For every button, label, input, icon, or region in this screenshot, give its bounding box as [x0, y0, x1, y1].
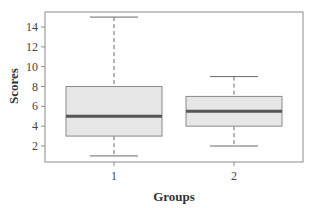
y-tick-label: 2 — [32, 139, 38, 153]
x-tick-label: 1 — [111, 169, 117, 183]
iqr-box — [66, 87, 162, 137]
y-tick-label: 14 — [26, 20, 38, 34]
plot-area: 246810121412 — [26, 12, 303, 183]
y-axis-title: Scores — [6, 68, 21, 104]
y-tick-label: 6 — [32, 99, 38, 113]
y-tick-label: 10 — [26, 60, 38, 74]
y-tick-label: 8 — [32, 80, 38, 94]
y-tick-label: 12 — [26, 40, 38, 54]
x-axis-title: Groups — [153, 189, 195, 204]
x-tick-label: 2 — [231, 169, 237, 183]
box-plot: 246810121412 Groups Scores — [0, 0, 309, 208]
y-tick-label: 4 — [32, 119, 38, 133]
